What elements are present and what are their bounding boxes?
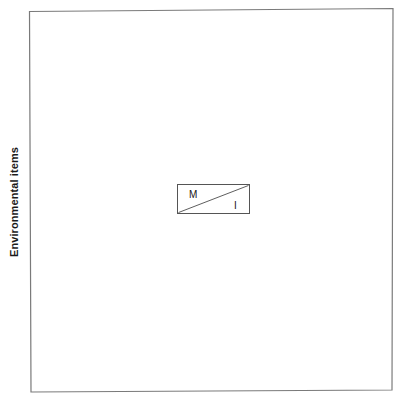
inner-box: M I (177, 184, 250, 214)
inner-box-label-i: I (234, 201, 237, 211)
figure-canvas: Environmental items M I (0, 0, 409, 403)
inner-box-label-m: M (189, 190, 197, 200)
